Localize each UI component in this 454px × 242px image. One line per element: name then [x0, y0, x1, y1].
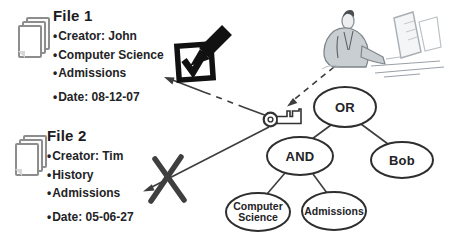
- node-bob-label: Bob: [370, 150, 434, 170]
- file1-creator: •Creator: John: [53, 27, 164, 46]
- file1-attr-computer-science: •Computer Science: [53, 46, 164, 65]
- file1-title: File 1: [53, 7, 164, 24]
- page-fold: [18, 51, 25, 58]
- node-computer-science-label: Computer Science: [226, 199, 290, 225]
- file1-attributes: •Creator: John •Computer Science •Admiss…: [53, 27, 164, 106]
- file2-creator: •Creator: Tim: [47, 147, 134, 166]
- node-admissions-label: Admissions: [299, 204, 369, 219]
- access-policy-diagram: File 1 •Creator: John •Computer Science …: [0, 0, 454, 242]
- file2-attr-history: •History: [47, 166, 134, 185]
- key-icon: [264, 109, 301, 126]
- node-or-label: OR: [313, 97, 377, 117]
- file2-attributes: •Creator: Tim •History •Admissions •Date…: [47, 147, 134, 226]
- file1-block: File 1 •Creator: John •Computer Science …: [53, 7, 164, 106]
- file2-attr-admissions: •Admissions: [47, 184, 134, 203]
- x-mark-icon: [151, 157, 184, 201]
- file1-date: •Date: 08-12-07: [53, 88, 164, 107]
- file2-date: •Date: 05-06-27: [47, 208, 134, 227]
- checkbox-checked-marker-icon: [177, 30, 227, 80]
- person-at-computer-icon: [322, 10, 444, 77]
- file1-document-stack-icon: [17, 17, 55, 61]
- file2-title: File 2: [47, 127, 134, 144]
- node-and-label: AND: [268, 146, 332, 166]
- file1-attr-admissions: •Admissions: [53, 64, 164, 83]
- file2-block: File 2 •Creator: Tim •History •Admission…: [47, 127, 134, 226]
- page-fold: [15, 169, 22, 176]
